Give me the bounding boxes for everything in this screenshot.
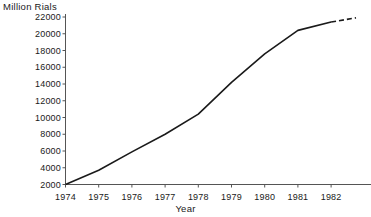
chart-container: Million Rials Year 200040006000800010000… — [0, 0, 371, 217]
data-line-series — [66, 22, 332, 184]
x-axis-tick-label: 1982 — [321, 192, 342, 202]
x-axis-tick-label: 1977 — [155, 192, 176, 202]
x-axis-tick-label: 1980 — [254, 192, 275, 202]
y-axis-tick-label: 22000 — [35, 12, 61, 22]
y-axis-tick-label: 18000 — [35, 46, 61, 56]
x-axis-tick-label: 1978 — [188, 192, 209, 202]
axis-lines — [66, 14, 371, 185]
y-axis-tick-label: 8000 — [40, 129, 61, 139]
x-axis-tick-label: 1975 — [88, 192, 109, 202]
x-axis-tick-label: 1981 — [287, 192, 308, 202]
data-series-layer — [66, 18, 357, 185]
y-axis-tick-label: 2000 — [40, 180, 61, 190]
y-axis-tick-label: 14000 — [35, 79, 61, 89]
x-axis-tick-label: 1979 — [221, 192, 242, 202]
x-axis-tick-label: 1976 — [121, 192, 142, 202]
x-axis-tick-label: 1974 — [55, 192, 76, 202]
y-axis-tick-label: 16000 — [35, 62, 61, 72]
y-axis-tick-label: 12000 — [35, 96, 61, 106]
y-axis-tick-label: 20000 — [35, 29, 61, 39]
y-axis-tick-label: 10000 — [35, 113, 61, 123]
data-line-projection — [331, 18, 356, 22]
y-axis-tick-label: 6000 — [40, 146, 61, 156]
y-axis-tick-label: 4000 — [40, 163, 61, 173]
